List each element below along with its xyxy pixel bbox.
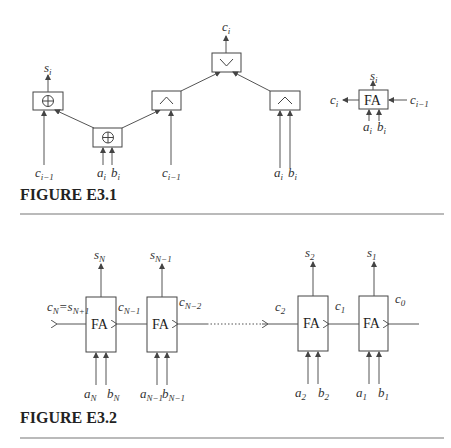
b-label: b2 — [318, 385, 330, 402]
figure-e3-2: FA sN aN bN cN−1 cN=sN+1 FA sN−1 aN−1 bN… — [20, 245, 419, 426]
sum-label: sN−1 — [150, 247, 172, 264]
carry-in-label: cN−2 — [179, 294, 202, 311]
a-label: a2 — [295, 385, 307, 402]
fa-c-i-label: ci — [330, 92, 339, 109]
a-label: aN−1 — [140, 386, 163, 403]
s-i-output-label: si — [44, 60, 52, 77]
xor-input-gate — [93, 128, 122, 147]
fa-label: FA — [363, 316, 381, 331]
figure-caption-e3-1: FIGURE E3.1 — [20, 186, 117, 203]
fa-block-n-minus-1: FA sN−1 aN−1 bN−1 cN−2 — [140, 247, 202, 403]
input-c-im1-label-2: ci−1 — [162, 165, 181, 182]
input-c-im1-label: ci−1 — [35, 165, 54, 182]
carry-out-label: cN=sN+1 — [47, 299, 89, 316]
fa-block-n: FA sN aN bN cN−1 — [84, 247, 140, 403]
c-i-output-label: ci — [222, 19, 231, 36]
b-label: b1 — [378, 385, 389, 402]
figure-caption-e3-2: FIGURE E3.2 — [20, 409, 117, 426]
fa-c-im1-label: ci−1 — [410, 92, 429, 109]
b-label: bN — [107, 386, 121, 403]
and-carry-gate — [152, 91, 181, 110]
fa-block-symbol: FA si ci ci−1 ai bi — [330, 68, 429, 136]
or-output-gate — [212, 53, 241, 72]
fa-a-i-label: ai — [363, 119, 373, 136]
fa-b-i-label: bi — [377, 119, 387, 136]
fa-label: FA — [364, 93, 382, 108]
diagram-canvas: si ci — [0, 0, 451, 448]
carry-in-label: cN−1 — [118, 299, 140, 316]
c2-label: c2 — [275, 299, 286, 316]
fa-label: FA — [303, 316, 321, 331]
input-a-i-label-2: ai — [274, 165, 284, 182]
carry-in-label: c0 — [395, 291, 406, 308]
figure-e3-1: si ci — [20, 19, 429, 203]
b-label: bN−1 — [162, 386, 185, 403]
a-label: a1 — [356, 385, 367, 402]
fa-label: FA — [152, 317, 170, 332]
carry-in-label: c1 — [335, 298, 345, 315]
input-b-i-label: bi — [111, 165, 121, 182]
input-b-i-label-2: bi — [288, 165, 298, 182]
sum-label: sN — [94, 247, 106, 264]
xor-output-gate — [33, 92, 63, 110]
a-label: aN — [84, 386, 98, 403]
sum-label: s2 — [305, 245, 315, 262]
fa-label: FA — [91, 317, 109, 332]
fa-s-i-label: si — [370, 68, 378, 85]
input-a-i-label: ai — [97, 165, 107, 182]
sum-label: s1 — [367, 245, 377, 262]
and-ab-gate — [270, 91, 300, 110]
